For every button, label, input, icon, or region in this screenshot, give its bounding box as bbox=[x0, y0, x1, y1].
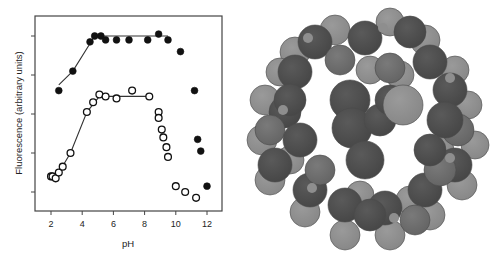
filled-data-point bbox=[55, 87, 62, 94]
open-data-point bbox=[83, 109, 90, 116]
filled-data-point bbox=[194, 136, 201, 143]
x-tick-label: 8 bbox=[142, 219, 147, 229]
atom-sphere bbox=[278, 55, 312, 89]
fluorescence-chart: 24681012 pH Fluorescence (arbitrary unit… bbox=[0, 0, 235, 257]
filled-data-point bbox=[204, 183, 211, 190]
x-tick-label: 2 bbox=[48, 219, 53, 229]
open-data-point bbox=[193, 194, 200, 201]
molecular-model-image bbox=[240, 0, 495, 257]
filled-data-point bbox=[177, 48, 184, 55]
atom-highlight bbox=[278, 105, 288, 115]
y-axis-label: Fluorescence (arbitrary units) bbox=[13, 51, 24, 175]
open-data-point bbox=[102, 93, 109, 100]
atom-sphere bbox=[400, 205, 430, 235]
open-data-point bbox=[90, 99, 97, 106]
filled-data-point bbox=[113, 37, 120, 44]
open-data-point bbox=[59, 163, 66, 170]
open-data-point bbox=[165, 154, 172, 161]
data-points bbox=[48, 31, 211, 202]
open-data-point bbox=[158, 126, 165, 133]
filled-data-point bbox=[126, 37, 133, 44]
atom-sphere bbox=[258, 148, 292, 182]
filled-data-point bbox=[102, 37, 109, 44]
x-tick-label: 12 bbox=[202, 219, 212, 229]
axis-ticks: 24681012 bbox=[31, 36, 212, 229]
x-tick-label: 10 bbox=[171, 219, 181, 229]
atom-highlight bbox=[389, 213, 399, 223]
atom-highlight bbox=[378, 23, 388, 33]
x-tick-label: 6 bbox=[111, 219, 116, 229]
filled-data-point bbox=[165, 37, 172, 44]
open-data-point bbox=[113, 95, 120, 102]
x-tick-label: 4 bbox=[80, 219, 85, 229]
atom-highlight bbox=[307, 183, 317, 193]
filled-data-point bbox=[155, 31, 162, 38]
atom-sphere bbox=[325, 45, 355, 75]
atom-sphere bbox=[427, 102, 463, 138]
atom-sphere bbox=[354, 199, 386, 231]
atom-highlight bbox=[445, 73, 455, 83]
open-data-point bbox=[146, 93, 153, 100]
atom-sphere bbox=[330, 220, 360, 250]
open-data-point bbox=[172, 183, 179, 190]
open-data-point bbox=[129, 87, 136, 94]
atom-highlight bbox=[303, 33, 313, 43]
atom-sphere bbox=[413, 45, 447, 79]
atom-sphere bbox=[283, 123, 317, 157]
open-data-point bbox=[155, 115, 162, 122]
filled-data-point bbox=[69, 68, 76, 75]
x-axis-label: pH bbox=[122, 238, 134, 249]
atom-sphere bbox=[414, 134, 446, 166]
filled-data-point bbox=[91, 33, 98, 40]
filled-data-point bbox=[87, 38, 94, 45]
open-data-point bbox=[182, 189, 189, 196]
open-data-point bbox=[160, 134, 167, 141]
atom-sphere bbox=[375, 53, 405, 83]
atom-sphere bbox=[305, 155, 335, 185]
atom-sphere bbox=[255, 115, 285, 145]
filled-data-point bbox=[144, 37, 151, 44]
atom-highlight bbox=[445, 153, 455, 163]
atom-sphere bbox=[346, 141, 384, 179]
atom-sphere bbox=[348, 21, 382, 55]
fit-line bbox=[59, 36, 168, 85]
plot-frame bbox=[35, 16, 222, 211]
atom-sphere bbox=[394, 16, 426, 48]
open-data-point bbox=[67, 150, 74, 157]
open-data-point bbox=[163, 144, 170, 151]
filled-data-point bbox=[191, 87, 198, 94]
atom-sphere bbox=[383, 85, 423, 125]
filled-data-point bbox=[197, 148, 204, 155]
